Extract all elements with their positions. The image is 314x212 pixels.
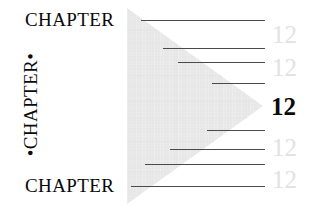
page-number-ghost: 12 xyxy=(272,135,297,160)
rule-line xyxy=(178,62,265,63)
rule-line xyxy=(207,130,265,131)
triangle-shape xyxy=(127,8,263,204)
chapter-opener-page: CHAPTER CHAPTER •CHAPTER• 12 12 12 12 12 xyxy=(0,0,314,212)
page-number-ghost: 12 xyxy=(272,167,297,192)
chapter-label-vertical: •CHAPTER• xyxy=(21,25,40,185)
rule-line xyxy=(163,48,265,49)
rule-line xyxy=(131,186,265,187)
page-number-ghost: 12 xyxy=(272,22,297,47)
page-number-ghost: 12 xyxy=(272,55,297,80)
triangle-texture-overlay xyxy=(120,0,270,212)
rule-line xyxy=(145,164,265,165)
page-number-active: 12 xyxy=(271,94,296,119)
rule-line xyxy=(141,20,265,21)
rule-line xyxy=(212,83,265,84)
rule-line xyxy=(170,149,265,150)
